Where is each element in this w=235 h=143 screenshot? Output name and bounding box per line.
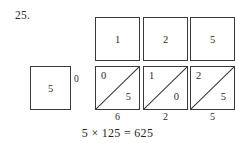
lattice-cell-upper-digit: 1 xyxy=(149,70,154,82)
lattice-cell: 1 0 xyxy=(143,66,188,110)
result-digit: 5 xyxy=(190,111,235,123)
lattice-cell: 0 5 xyxy=(95,66,140,110)
carry-digit: 0 xyxy=(74,74,79,85)
multiplicand-digit-box: 2 xyxy=(143,17,188,61)
lattice-cell-upper-digit: 2 xyxy=(196,70,201,82)
lattice-cell-lower-digit: 0 xyxy=(174,91,179,103)
multiplier-digit-box: 5 xyxy=(30,66,71,110)
lattice-multiplication-worksheet: 25. 1 2 5 5 0 0 5 1 0 2 5 6 2 5 xyxy=(0,0,235,143)
lattice-cell: 2 5 xyxy=(190,66,235,110)
multiplier-digit: 5 xyxy=(31,83,70,94)
multiplicand-digit-box: 1 xyxy=(95,17,140,61)
result-digit: 2 xyxy=(143,111,188,123)
lattice-cell-lower-digit: 5 xyxy=(221,91,226,103)
multiplicand-digit: 1 xyxy=(96,34,139,45)
multiplicand-digit-box: 5 xyxy=(190,17,235,61)
multiplicand-digit: 2 xyxy=(144,34,187,45)
lattice-cell-lower-digit: 5 xyxy=(126,91,131,103)
multiplicand-digit: 5 xyxy=(191,34,234,45)
result-digit: 6 xyxy=(95,111,140,123)
lattice-cell-upper-digit: 0 xyxy=(101,70,106,82)
equation-text: 5 × 125 = 625 xyxy=(0,126,235,140)
problem-number: 25. xyxy=(15,9,30,22)
